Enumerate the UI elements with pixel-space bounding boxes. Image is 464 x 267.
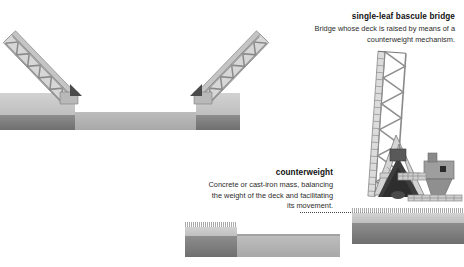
right-abutment-base <box>196 115 240 130</box>
trunnion-pivot <box>391 191 405 199</box>
figure-double-leaf-bascule-bridge <box>0 0 240 140</box>
title-callout: single-leaf bascule bridge Bridge whose … <box>225 12 455 45</box>
left-abutment-base <box>0 115 75 130</box>
counterweight-callout: counterweight Concrete or cast-iron mass… <box>193 168 333 212</box>
counterweight-line-1: Concrete or cast-iron mass, balancing <box>193 180 333 191</box>
control-house-window <box>440 166 446 172</box>
right-bascule-leaf <box>140 12 220 104</box>
approach-bank-top <box>185 227 237 236</box>
lower-water-channel <box>237 236 340 257</box>
approach-bank-base <box>185 236 237 257</box>
left-bascule-leaf <box>52 12 132 104</box>
diagram-canvas: single-leaf bascule bridge Bridge whose … <box>0 0 464 267</box>
waterline <box>237 234 340 236</box>
right-bank-base <box>352 223 464 244</box>
counterweight-label: counterweight <box>193 168 333 179</box>
counterweight-line-2: the weight of the deck and facilitating <box>193 191 333 202</box>
counterweight-line-3: its movement. <box>193 201 333 212</box>
callout-line-2: counterweight mechanism. <box>225 35 455 46</box>
callout-title: single-leaf bascule bridge <box>225 12 455 23</box>
water-channel <box>75 112 196 130</box>
callout-line-1: Bridge whose deck is raised by means of … <box>225 24 455 35</box>
control-house <box>424 153 454 197</box>
right-bank-top <box>352 213 464 223</box>
figure-single-leaf-bascule-bridge <box>340 45 464 267</box>
figure-single-leaf-approach-bank <box>185 222 345 267</box>
